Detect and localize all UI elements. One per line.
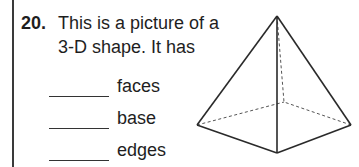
hidden-edges <box>197 16 351 125</box>
visible-edges <box>197 16 351 153</box>
pyramid-figure <box>0 0 359 167</box>
